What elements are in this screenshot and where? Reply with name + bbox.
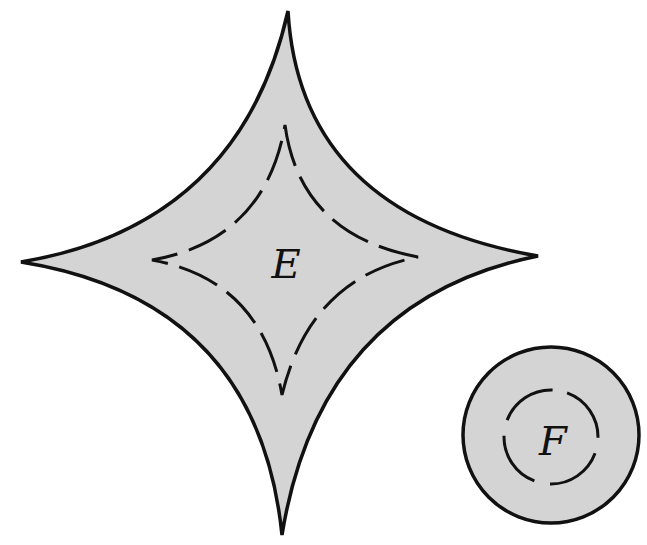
- figure-canvas: E F: [0, 0, 647, 545]
- shape-f: F: [463, 347, 639, 523]
- shape-f-label: F: [538, 418, 568, 464]
- shape-e: E: [21, 11, 538, 535]
- shape-e-label: E: [270, 241, 300, 287]
